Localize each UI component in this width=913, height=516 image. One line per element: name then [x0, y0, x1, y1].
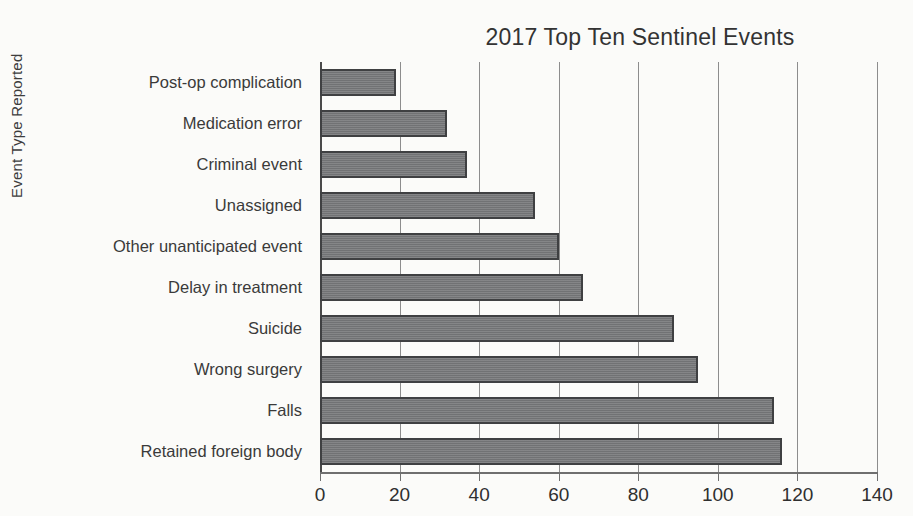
- bar-row: [320, 390, 877, 431]
- x-tick-mark: [400, 472, 401, 481]
- plot-area: [320, 62, 877, 472]
- y-axis-label: Retained foreign body: [2, 442, 302, 461]
- y-axis-label: Post-op complication: [2, 73, 302, 92]
- bar[interactable]: [320, 69, 396, 96]
- x-tick-mark: [320, 472, 321, 481]
- x-tick-label: 100: [688, 484, 748, 506]
- y-axis-label: Wrong surgery: [2, 360, 302, 379]
- x-tick-label: 0: [290, 484, 350, 506]
- x-tick-label: 60: [529, 484, 589, 506]
- y-axis-category-labels: Post-op complicationMedication errorCrim…: [0, 62, 312, 472]
- bar-row: [320, 267, 877, 308]
- y-axis-label: Other unanticipated event: [2, 237, 302, 256]
- x-tick-mark: [718, 472, 719, 481]
- chart-title: 2017 Top Ten Sentinel Events: [430, 24, 850, 51]
- x-axis-line: [320, 472, 878, 474]
- bar[interactable]: [320, 274, 583, 301]
- bar-row: [320, 144, 877, 185]
- gridline-140: [877, 62, 878, 472]
- x-tick-mark: [877, 472, 878, 481]
- x-tick-label: 40: [449, 484, 509, 506]
- bar-row: [320, 349, 877, 390]
- bar[interactable]: [320, 438, 782, 465]
- bar[interactable]: [320, 397, 774, 424]
- bar[interactable]: [320, 315, 674, 342]
- x-tick-mark: [797, 472, 798, 481]
- x-tick-mark: [479, 472, 480, 481]
- bar[interactable]: [320, 151, 467, 178]
- bar[interactable]: [320, 356, 698, 383]
- x-tick-label: 120: [767, 484, 827, 506]
- y-axis-label: Suicide: [2, 319, 302, 338]
- x-tick-label: 140: [847, 484, 907, 506]
- y-axis-label: Delay in treatment: [2, 278, 302, 297]
- bar[interactable]: [320, 192, 535, 219]
- x-tick-label: 20: [370, 484, 430, 506]
- x-tick-mark: [559, 472, 560, 481]
- y-axis-label: Falls: [2, 401, 302, 420]
- y-axis-label: Criminal event: [2, 155, 302, 174]
- bar-row: [320, 226, 877, 267]
- bar-row: [320, 308, 877, 349]
- bar-row: [320, 431, 877, 472]
- bar[interactable]: [320, 110, 447, 137]
- y-axis-label: Unassigned: [2, 196, 302, 215]
- bar-row: [320, 62, 877, 103]
- bar-row: [320, 103, 877, 144]
- bar-chart-figure: 2017 Top Ten Sentinel Events Event Type …: [0, 0, 913, 516]
- y-axis-label: Medication error: [2, 114, 302, 133]
- bar-row: [320, 185, 877, 226]
- x-tick-label: 80: [608, 484, 668, 506]
- bar[interactable]: [320, 233, 559, 260]
- x-tick-mark: [638, 472, 639, 481]
